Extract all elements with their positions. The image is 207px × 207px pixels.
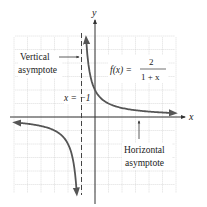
- vertical-asymptote-label-line1: Vertical: [20, 52, 50, 62]
- function-label-denominator: 1 + x: [141, 72, 160, 82]
- vertical-asymptote-label-line2: asymptote: [18, 65, 57, 75]
- x-axis-label: x: [188, 111, 194, 122]
- graph-canvas: x y Vertical asymptote x = −1 f(x) = 2 1…: [0, 0, 207, 207]
- function-label-lhs: f(x) =: [110, 65, 132, 76]
- function-label-numerator: 2: [149, 57, 154, 67]
- y-axis-label: y: [91, 7, 97, 18]
- horizontal-asymptote-label-line2: asymptote: [125, 158, 164, 168]
- asymptote-equation-label: x = −1: [63, 93, 91, 103]
- horizontal-asymptote-label-line1: Horizontal: [124, 145, 165, 155]
